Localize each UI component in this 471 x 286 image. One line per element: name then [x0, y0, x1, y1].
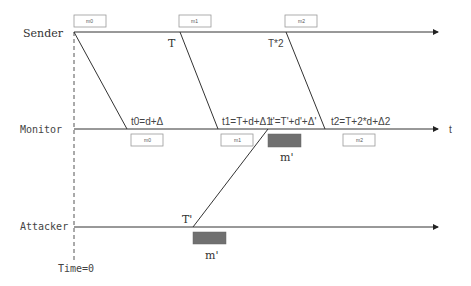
- monitor-box-forged: [268, 134, 301, 147]
- sender-box-m1-label: m1: [191, 18, 198, 24]
- transit-m0: [74, 32, 127, 129]
- monitor-forged-label: m': [280, 151, 293, 164]
- sender-box-m2-label: m2: [298, 18, 305, 24]
- monitor-box-m1-label: m1: [234, 137, 241, 143]
- attacker-box-forged: [193, 232, 226, 244]
- monitor-time-t0: t0=d+Δ: [131, 116, 164, 127]
- monitor-time-t2: t2=T+2*d+Δ2: [331, 116, 391, 127]
- attacker-time-Tprime: T': [182, 213, 192, 226]
- monitor-box-m0-label: m0: [144, 137, 151, 143]
- lane-label-attacker: Attacker: [20, 221, 68, 232]
- time-zero-label: Time=0: [58, 263, 94, 274]
- monitor-box-m2-label: m2: [356, 137, 363, 143]
- sender-time-T2: T*2: [268, 38, 284, 49]
- sender-time-T: T: [168, 37, 176, 50]
- monitor-time-tprime: t'=T'+d'+Δ': [270, 116, 316, 127]
- time-axis-label: t: [449, 124, 452, 135]
- timing-diagram: Sender Monitor Attacker Time=0 t m0 m1 m…: [0, 0, 471, 286]
- attacker-forged-label: m': [205, 249, 218, 262]
- transit-m1: [180, 32, 218, 129]
- sender-box-m0-label: m0: [86, 18, 93, 24]
- transit-m2: [286, 32, 325, 129]
- monitor-time-t1: t1=T+d+Δ1: [222, 116, 272, 127]
- lane-label-monitor: Monitor: [20, 124, 62, 135]
- lane-label-sender: Sender: [23, 27, 64, 40]
